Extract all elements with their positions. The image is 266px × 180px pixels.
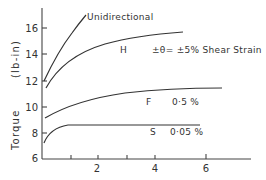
y-tick-6: 6 <box>32 153 38 164</box>
y-tick-10: 10 <box>25 102 38 113</box>
x-tick-labels: 2 4 6 <box>94 163 209 174</box>
y-tick-labels: 16 14 12 10 8 6 <box>25 23 38 164</box>
y-axis-label-units: (lb-in) <box>10 40 21 78</box>
y-tick-16: 16 <box>25 23 38 34</box>
y-tick-14: 14 <box>25 49 38 60</box>
label-F-strain: 0·5 % <box>172 97 199 107</box>
x-tick-6: 6 <box>203 163 209 174</box>
x-tick-2: 2 <box>94 163 100 174</box>
label-S: S <box>150 127 156 137</box>
label-F: F <box>146 97 151 107</box>
label-H: H <box>120 45 127 55</box>
label-unidirectional: Unidirectional <box>87 12 153 22</box>
y-tick-12: 12 <box>25 76 38 87</box>
x-tick-4: 4 <box>152 163 158 174</box>
y-axis-label: Torque (lb-in) <box>10 40 21 151</box>
label-S-strain: 0·05 % <box>170 127 203 137</box>
y-axis-label-main: Torque <box>10 109 21 151</box>
y-tick-8: 8 <box>32 128 38 139</box>
label-shear-strain: ±θ= ±5% Shear Strain <box>152 45 262 55</box>
x-ticks <box>71 154 206 159</box>
curve-unidirectional <box>44 15 86 81</box>
chart: 16 14 12 10 8 6 2 4 6 Torque (lb-in) Uni… <box>0 0 266 180</box>
